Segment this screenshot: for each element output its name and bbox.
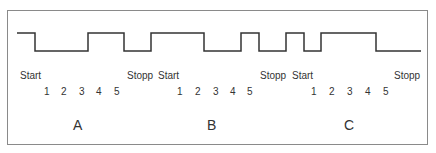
frame-b-bit-3: 3 bbox=[213, 86, 219, 98]
frame-a-bit-2: 2 bbox=[61, 86, 67, 98]
frame-a-title: A bbox=[73, 117, 82, 133]
frame-a-stop-label: Stopp bbox=[127, 70, 153, 82]
frame-c-bit-1: 1 bbox=[311, 86, 317, 98]
frame-c-bit-3: 3 bbox=[347, 86, 353, 98]
frame-b-bit-1: 1 bbox=[177, 86, 183, 98]
frame-a-start-label: Start bbox=[20, 70, 41, 82]
frame-a-bit-1: 1 bbox=[44, 86, 50, 98]
frame-c-stop-label: Stopp bbox=[394, 70, 420, 82]
frame-c-bit-5: 5 bbox=[383, 86, 389, 98]
frame-b-bit-2: 2 bbox=[195, 86, 201, 98]
frame-b-bit-4: 4 bbox=[230, 86, 236, 98]
frame-b-bit-5: 5 bbox=[247, 86, 253, 98]
frame-b-stop-label: Stopp bbox=[260, 70, 286, 82]
frame-c-bit-2: 2 bbox=[329, 86, 335, 98]
frame-c-bit-4: 4 bbox=[365, 86, 371, 98]
frame-b-title: B bbox=[207, 117, 216, 133]
frame-b-start-label: Start bbox=[158, 70, 179, 82]
frame-a-bit-3: 3 bbox=[79, 86, 85, 98]
signal-waveform bbox=[0, 0, 436, 153]
frame-a-bit-4: 4 bbox=[96, 86, 102, 98]
frame-a-bit-5: 5 bbox=[114, 86, 120, 98]
frame-c-start-label: Start bbox=[292, 70, 313, 82]
frame-c-title: C bbox=[344, 117, 354, 133]
